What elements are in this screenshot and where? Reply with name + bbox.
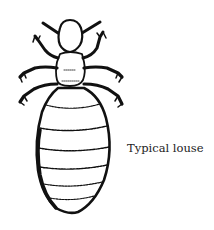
louse-illustration [0, 0, 140, 230]
figure-caption: Typical louse [127, 141, 204, 155]
